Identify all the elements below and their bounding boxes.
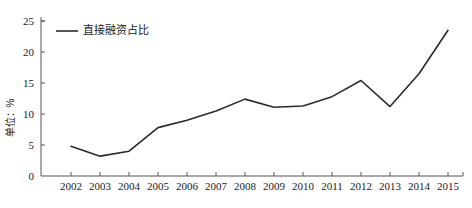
legend-label: 直接融资占比 xyxy=(83,23,149,36)
x-axis-tick-label: 2007 xyxy=(205,180,228,192)
y-axis-title: 单位：% xyxy=(4,98,16,137)
x-axis-tick-label: 2010 xyxy=(292,180,315,192)
line-chart: 0510152025200220032004200520062007200820… xyxy=(0,0,472,208)
x-axis-tick-label: 2006 xyxy=(176,180,199,192)
x-axis-tick-label: 2005 xyxy=(147,180,170,192)
x-axis-tick-label: 2013 xyxy=(379,180,402,192)
y-axis-tick-label: 0 xyxy=(29,170,35,182)
x-axis-tick-label: 2008 xyxy=(234,180,257,192)
x-axis-tick-label: 2014 xyxy=(408,180,431,192)
x-axis-tick-label: 2009 xyxy=(263,180,286,192)
x-axis-tick-label: 2003 xyxy=(89,180,112,192)
x-axis-tick-label: 2015 xyxy=(437,180,460,192)
x-axis-tick-label: 2004 xyxy=(118,180,141,192)
x-axis-tick-label: 2002 xyxy=(60,180,82,192)
y-axis-tick-label: 10 xyxy=(23,108,35,120)
x-axis-tick-label: 2012 xyxy=(350,180,372,192)
y-axis-tick-label: 5 xyxy=(29,139,35,151)
y-axis-tick-label: 15 xyxy=(23,77,35,89)
series-line-1 xyxy=(71,30,448,156)
y-axis-tick-label: 25 xyxy=(23,15,35,27)
x-axis-tick-label: 2011 xyxy=(321,180,343,192)
chart-container: 0510152025200220032004200520062007200820… xyxy=(0,0,472,208)
y-axis-tick-label: 20 xyxy=(23,46,35,58)
